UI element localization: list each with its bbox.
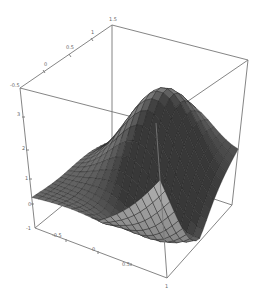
label-vert-4: -1 bbox=[26, 225, 31, 231]
label-top-1: 0 bbox=[44, 61, 47, 67]
label-vert-3: 0 bbox=[28, 201, 31, 207]
label-vert-1: 2 bbox=[22, 145, 25, 151]
label-bottom-0: -0.5 bbox=[52, 232, 62, 238]
label-top-3: 1 bbox=[91, 29, 94, 35]
surface-plot: -0.5 0 0.5 1 1.5 3 2 1 0 -1 -0.5 0 0.5 1 bbox=[0, 0, 257, 298]
label-bottom-3: 1 bbox=[165, 283, 168, 289]
label-vert-0: 3 bbox=[17, 111, 20, 117]
label-vert-2: 1 bbox=[25, 175, 28, 181]
label-top-2: 0.5 bbox=[66, 44, 74, 50]
label-top-0: -0.5 bbox=[10, 82, 20, 88]
label-bottom-1: 0 bbox=[92, 246, 95, 252]
label-bottom-2: 0.5 bbox=[122, 261, 130, 267]
label-top-4: 1.5 bbox=[109, 16, 117, 22]
